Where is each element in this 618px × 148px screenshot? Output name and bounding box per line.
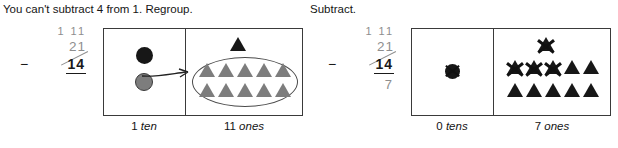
one-counter	[256, 83, 272, 97]
subtraction-problem-regroup: 1 11 21 − 14	[14, 26, 100, 94]
subtraction-problem-subtract: 1 11 21 − 14 7	[322, 26, 408, 94]
one-counter	[564, 83, 580, 97]
mat-label-ones-subtract: 7 ones	[493, 120, 611, 132]
step-heading-regroup: You can't subtract 4 from 1. Regroup.	[3, 3, 193, 15]
regroup-marks: 1 11	[322, 26, 408, 40]
ones-count: 11	[224, 120, 236, 132]
mat-label-tens-subtract: 0 tens	[411, 120, 493, 132]
one-counter	[564, 60, 580, 74]
ones-unit-word: ones	[544, 120, 569, 132]
subtrahend-row: − 14	[322, 57, 408, 76]
cross-out-icon	[536, 36, 556, 56]
one-counter	[218, 63, 234, 77]
step-heading-subtract: Subtract.	[310, 3, 356, 15]
one-counter	[237, 63, 253, 77]
minus-operator: −	[20, 57, 29, 71]
mat-label-tens-regroup: 1 ten	[103, 120, 185, 132]
one-counter	[507, 83, 523, 97]
cross-out-icon	[505, 59, 525, 79]
one-counter	[583, 83, 599, 97]
one-counter	[275, 63, 291, 77]
tens-unit-word: tens	[446, 120, 468, 132]
one-counter	[583, 60, 599, 74]
regroup-marks: 1 11	[14, 26, 100, 40]
tens-column-subtract	[412, 29, 494, 115]
answer-value: 7	[322, 76, 408, 94]
one-counter	[275, 83, 291, 97]
one-counter	[526, 83, 542, 97]
place-value-mat-subtract	[411, 28, 611, 116]
subtrahend-digits: 14	[66, 56, 86, 74]
cross-out-icon	[543, 59, 563, 79]
ones-unit-word: ones	[239, 120, 264, 132]
ones-column-subtract	[494, 29, 610, 115]
one-counter	[230, 37, 246, 51]
minus-operator: −	[328, 57, 337, 71]
one-counter	[237, 83, 253, 97]
mat-label-ones-regroup: 11 ones	[185, 120, 303, 132]
one-counter	[545, 83, 561, 97]
answer-value	[14, 76, 100, 94]
one-counter	[256, 63, 272, 77]
tens-unit-word: ten	[141, 120, 157, 132]
ones-count: 7	[535, 120, 541, 132]
cross-out-icon	[444, 63, 461, 80]
minuend-struck: 21	[322, 40, 408, 57]
tens-count: 0	[436, 120, 442, 132]
minuend-struck: 21	[14, 40, 100, 57]
subtrahend-digits: 14	[374, 56, 394, 74]
regroup-arrow-icon	[140, 62, 210, 86]
tens-count: 1	[131, 120, 137, 132]
one-counter	[218, 83, 234, 97]
subtrahend-row: − 14	[14, 57, 100, 76]
cross-out-icon	[524, 59, 544, 79]
